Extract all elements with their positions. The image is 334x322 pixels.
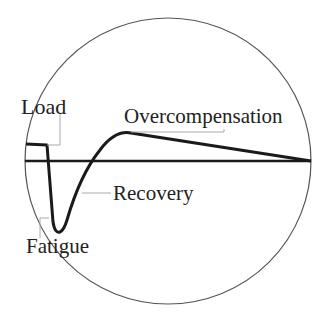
supercompensation-diagram: Load Overcompensation Recovery Fatigue <box>0 0 334 322</box>
load-label: Load <box>21 94 66 119</box>
overcompensation-label: Overcompensation <box>124 104 283 128</box>
fatigue-label: Fatigue <box>26 234 89 258</box>
recovery-label: Recovery <box>113 181 194 205</box>
overcompensation-leader-line <box>131 129 224 132</box>
